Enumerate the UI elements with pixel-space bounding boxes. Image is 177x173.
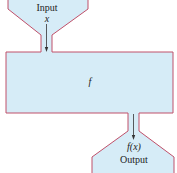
output-label: Output (120, 155, 148, 165)
input-variable: x (45, 14, 49, 24)
machine-label: f (89, 77, 92, 87)
input-label: Input (36, 3, 57, 13)
output-expression: f(x) (127, 142, 141, 152)
